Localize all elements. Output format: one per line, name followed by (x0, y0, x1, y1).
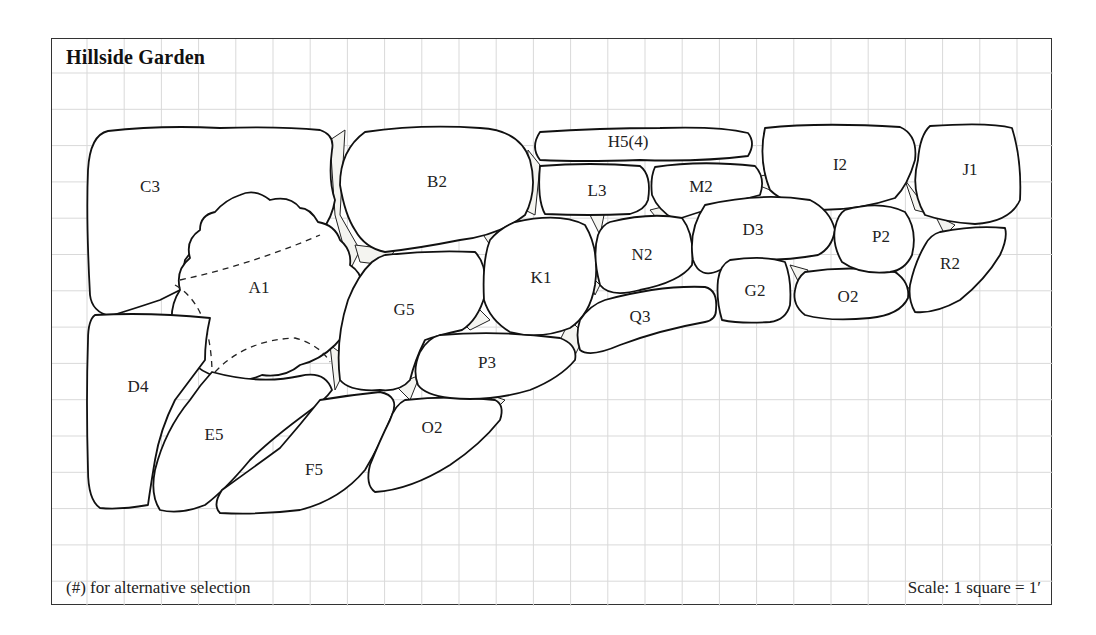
stone-label-C3: C3 (140, 177, 160, 196)
stone-label-P3: P3 (478, 353, 496, 372)
stone-label-L3: L3 (588, 181, 607, 200)
stone-label-O2a: O2 (422, 418, 443, 437)
stone-label-O2b: O2 (838, 287, 859, 306)
stone-label-A1: A1 (249, 278, 270, 297)
stone-label-B2: B2 (427, 172, 447, 191)
stone-label-I2: I2 (833, 155, 847, 174)
stone-label-F5: F5 (305, 460, 323, 479)
stone-label-G5: G5 (394, 300, 415, 319)
stone-label-D4: D4 (128, 377, 149, 396)
stone-label-Q3: Q3 (630, 307, 651, 326)
stone-label-P2: P2 (872, 227, 890, 246)
stone-label-E5: E5 (205, 425, 224, 444)
stone-label-J1: J1 (962, 160, 977, 179)
stone-label-N2: N2 (632, 245, 653, 264)
stone-label-G2: G2 (745, 281, 766, 300)
stone-layout: C3B2H5(4)L3M2I2J1A1D4E5F5O2G5P3K1N2Q3D3G… (0, 0, 1096, 635)
stone-label-K1: K1 (531, 268, 552, 287)
stone-label-D3: D3 (743, 220, 764, 239)
stone-label-M2: M2 (689, 177, 713, 196)
stones (87, 124, 1020, 513)
stone-label-H5: H5(4) (608, 132, 649, 151)
stone-label-R2: R2 (940, 254, 960, 273)
